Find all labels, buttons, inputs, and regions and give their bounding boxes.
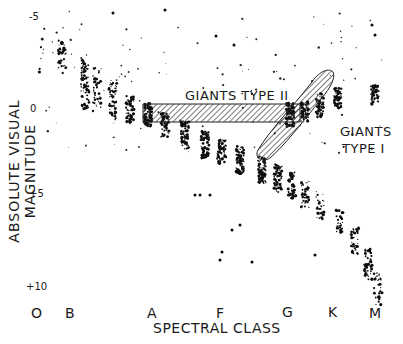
giants-type-ii-label: GIANTS TYPE II — [185, 88, 289, 103]
x-class-a: A — [147, 305, 157, 321]
x-class-k: K — [328, 304, 337, 320]
y-axis-label: ABSOLUTE VISUAL MAGNITUDE — [6, 51, 38, 291]
hr-diagram: ABSOLUTE VISUAL MAGNITUDE -5 0 +5 +10 O … — [0, 0, 403, 344]
x-axis-label: SPECTRAL CLASS — [153, 320, 281, 336]
y-tick-plus5: +5 — [29, 188, 44, 199]
x-class-b: B — [65, 305, 75, 321]
y-tick-plus10: +10 — [26, 281, 47, 292]
giants-type-ii-region — [143, 104, 300, 122]
y-tick-minus5: -5 — [29, 11, 39, 22]
plot-area — [0, 0, 403, 344]
x-class-g: G — [282, 304, 293, 320]
x-class-m: M — [369, 305, 381, 321]
x-class-f: F — [216, 305, 224, 321]
giants-type-i-label-1: GIANTS — [340, 124, 392, 139]
x-class-o: O — [31, 305, 42, 321]
star-points — [38, 9, 384, 307]
giants-type-i-label-2: TYPE I — [342, 141, 385, 156]
y-tick-0: 0 — [30, 103, 36, 114]
